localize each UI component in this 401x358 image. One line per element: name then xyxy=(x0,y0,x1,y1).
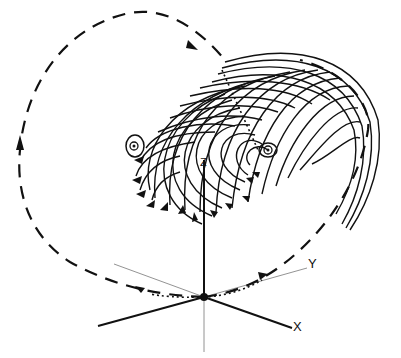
dashed-orbit xyxy=(19,12,368,297)
dotted-seam xyxy=(150,70,262,297)
diagram-svg: X Y Z xyxy=(0,0,401,358)
axis-label-y: Y xyxy=(308,256,317,271)
flow-diagram: X Y Z xyxy=(0,0,401,358)
spiral-sheet xyxy=(136,53,379,230)
vortex-left xyxy=(126,135,144,157)
vortex-right xyxy=(259,143,277,157)
axis-label-x: X xyxy=(293,319,302,334)
bold-axes xyxy=(98,160,292,328)
axis-label-z: Z xyxy=(200,156,207,168)
thin-axes xyxy=(114,264,307,352)
